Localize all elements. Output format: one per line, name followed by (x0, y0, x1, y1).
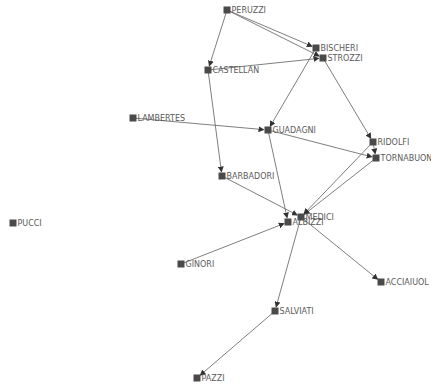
edge-peruzzi-bischeri (227, 10, 312, 46)
edge-tornabuon-medici (305, 158, 376, 214)
node-tornabuon[interactable]: TORNABUON (373, 154, 431, 163)
node-bischeri[interactable]: BISCHERI (313, 44, 359, 53)
edge-medici-salviati (276, 217, 301, 307)
edge-strozzi-ridolfi (323, 58, 371, 138)
node-label: GINORI (186, 260, 215, 269)
node-label: BISCHERI (321, 44, 359, 53)
node-label: SALVIATI (280, 307, 314, 316)
edge-ginori-albizzi (181, 224, 284, 264)
edge-barbadori-medici (222, 176, 297, 215)
node-square-icon[interactable] (313, 45, 320, 52)
edge-peruzzi-strozzi (227, 10, 319, 56)
edge-layer (133, 10, 378, 375)
node-castellan[interactable]: CASTELLAN (205, 66, 260, 75)
node-label: BARBADORI (227, 172, 275, 181)
node-guadagni[interactable]: GUADAGNI (265, 126, 316, 135)
node-label: PUCCI (18, 219, 42, 228)
node-ridolfi[interactable]: RIDOLFI (370, 138, 410, 147)
node-acciaiuol[interactable]: ACCIAIUOL (378, 278, 430, 287)
node-peruzzi[interactable]: PERUZZI (224, 6, 266, 15)
node-square-icon[interactable] (265, 127, 272, 134)
edge-ridolfi-medici (304, 142, 373, 214)
node-square-icon[interactable] (378, 279, 385, 286)
edge-bischeri-guadagni (270, 48, 316, 126)
node-label: GUADAGNI (273, 126, 316, 135)
node-strozzi[interactable]: STROZZI (320, 54, 363, 63)
node-label: CASTELLAN (213, 66, 260, 75)
edge-castellan-barbadori (208, 70, 221, 172)
node-lambertes[interactable]: LAMBERTES (130, 114, 186, 123)
node-label: RIDOLFI (378, 138, 410, 147)
node-label: PERUZZI (232, 6, 266, 15)
node-albizzi[interactable]: ALBIZZI (285, 218, 324, 227)
node-salviati[interactable]: SALVIATI (272, 307, 314, 316)
node-square-icon[interactable] (10, 220, 17, 227)
node-square-icon[interactable] (370, 139, 377, 146)
edge-peruzzi-castellan (209, 10, 227, 66)
node-ginori[interactable]: GINORI (178, 260, 215, 269)
node-square-icon[interactable] (320, 55, 327, 62)
node-label: LAMBERTES (138, 114, 186, 123)
node-pazzi[interactable]: PAZZI (194, 374, 225, 383)
node-pucci[interactable]: PUCCI (10, 219, 42, 228)
node-layer: PERUZZIBISCHERISTROZZICASTELLANLAMBERTES… (10, 6, 431, 383)
node-square-icon[interactable] (285, 219, 292, 226)
node-label: STROZZI (328, 54, 363, 63)
node-square-icon[interactable] (373, 155, 380, 162)
node-square-icon[interactable] (272, 308, 279, 315)
node-label: ALBIZZI (293, 218, 324, 227)
node-label: TORNABUON (380, 154, 431, 163)
node-square-icon[interactable] (224, 7, 231, 14)
network-graph: PERUZZIBISCHERISTROZZICASTELLANLAMBERTES… (0, 0, 431, 390)
node-square-icon[interactable] (219, 173, 226, 180)
node-square-icon[interactable] (130, 115, 137, 122)
edge-salviati-pazzi (200, 311, 275, 375)
node-label: ACCIAIUOL (386, 278, 430, 287)
node-square-icon[interactable] (178, 261, 185, 268)
node-barbadori[interactable]: BARBADORI (219, 172, 275, 181)
node-square-icon[interactable] (194, 375, 201, 382)
node-label: PAZZI (202, 374, 225, 383)
node-square-icon[interactable] (205, 67, 212, 74)
